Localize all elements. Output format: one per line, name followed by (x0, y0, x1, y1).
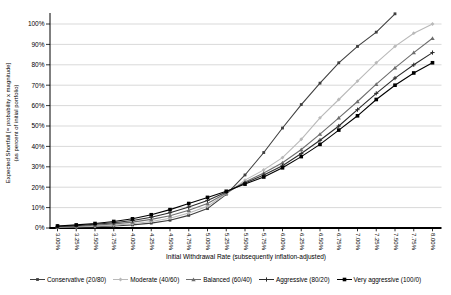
legend-item-moderate-40-60: Moderate (40/60) (113, 276, 179, 283)
x-tick-label: 7.00% (355, 233, 361, 251)
x-tick-label: 6.00% (280, 233, 286, 251)
series-4 (55, 50, 434, 228)
y-tick-label: 20% (31, 184, 44, 191)
y-tick-label: 80% (31, 61, 44, 68)
y-axis-title: Expected Shortfall [= probability x magn… (5, 62, 11, 183)
legend-item-aggressive-80-20: Aggressive (80/20) (259, 276, 330, 283)
axes (50, 13, 442, 229)
x-axis-title: Initial Withdrawal Rate (subsequently in… (166, 253, 326, 261)
x-tick-label: 6.25% (299, 233, 305, 251)
x-tick-label: 4.25% (149, 233, 155, 251)
y-axis-ticks: 0%10%20%30%40%50%60%70%80%90%100% (28, 20, 50, 231)
x-tick-label: 5.25% (224, 233, 230, 251)
series-2 (56, 22, 435, 229)
aggressive-80-20-marker-icon (259, 276, 274, 283)
legend-item-balanced-60-40: Balanced (60/40) (186, 276, 252, 283)
y-tick-label: 100% (28, 20, 45, 27)
x-tick-label: 7.50% (393, 233, 399, 251)
x-tick-label: 4.75% (186, 233, 192, 251)
legend-label: Very aggressive (100/0) (354, 276, 422, 283)
y-tick-label: 50% (31, 122, 44, 129)
data-series (55, 12, 434, 229)
legend-label: Conservative (20/80) (47, 276, 106, 283)
x-tick-label: 3.25% (74, 233, 80, 251)
chart-plot-area: 0%10%20%30%40%50%60%70%80%90%100% 3.00%3… (0, 0, 451, 270)
x-tick-label: 3.00% (55, 233, 61, 251)
x-tick-label: 6.75% (336, 233, 342, 251)
x-tick-label: 5.50% (243, 233, 249, 251)
x-tick-label: 3.50% (93, 233, 99, 251)
x-axis-ticks: 3.00%3.25%3.50%3.75%4.00%4.25%4.50%4.75%… (55, 228, 436, 251)
conservative-20-80-marker-icon (30, 276, 45, 283)
x-tick-label: 8.00% (430, 233, 436, 251)
legend-label: Balanced (60/40) (203, 276, 252, 283)
x-tick-label: 4.00% (130, 233, 136, 251)
x-tick-label: 3.75% (111, 233, 117, 251)
x-tick-label: 4.50% (168, 233, 174, 251)
y-tick-label: 70% (31, 82, 44, 89)
x-tick-label: 6.50% (318, 233, 324, 251)
x-tick-label: 7.75% (411, 233, 417, 251)
x-tick-label: 5.00% (205, 233, 211, 251)
y-tick-label: 40% (31, 143, 44, 150)
x-tick-label: 7.25% (374, 233, 380, 251)
legend-label: Moderate (40/60) (130, 276, 179, 283)
x-tick-label: 5.75% (261, 233, 267, 251)
legend-label: Aggressive (80/20) (276, 276, 330, 283)
series-5 (56, 61, 435, 228)
expected-shortfall-chart: 0%10%20%30%40%50%60%70%80%90%100% 3.00%3… (0, 0, 451, 295)
very-aggressive-100-0-marker-icon (337, 276, 352, 283)
legend-item-conservative-20-80: Conservative (20/80) (30, 276, 106, 283)
y-tick-label: 90% (31, 41, 44, 48)
balanced-60-40-marker-icon (186, 276, 201, 283)
y-axis-title-sub: (as percent of initial portfolio) (13, 84, 19, 161)
legend-item-very-aggressive-100-0: Very aggressive (100/0) (337, 276, 422, 283)
moderate-40-60-marker-icon (113, 276, 128, 283)
y-tick-label: 60% (31, 102, 44, 109)
y-tick-label: 0% (35, 224, 45, 231)
y-tick-label: 10% (31, 204, 44, 211)
chart-legend: Conservative (20/80)Moderate (40/60)Bala… (0, 271, 451, 287)
y-tick-label: 30% (31, 163, 44, 170)
